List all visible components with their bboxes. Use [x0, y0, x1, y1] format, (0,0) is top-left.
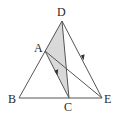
label-d: D — [57, 5, 66, 19]
label-b: B — [8, 92, 16, 106]
segment-ae — [45, 51, 102, 98]
triangle-diagram: D A B C E — [0, 0, 123, 120]
label-a: A — [34, 41, 43, 55]
geometry-figure: D A B C E — [0, 0, 123, 120]
label-e: E — [104, 92, 111, 106]
label-c: C — [64, 100, 72, 114]
